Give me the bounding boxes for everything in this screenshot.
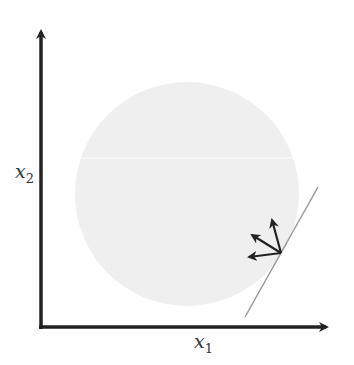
x1-axis-label: x1 — [194, 332, 213, 355]
x1-subscript: 1 — [205, 341, 213, 356]
x2-subscript: 2 — [26, 171, 34, 186]
x2-axis-label: x2 — [15, 162, 34, 185]
x2-base: x — [15, 160, 26, 182]
x1-base: x — [194, 330, 205, 352]
diagram-canvas — [0, 0, 354, 365]
feasible-disc — [75, 82, 299, 306]
